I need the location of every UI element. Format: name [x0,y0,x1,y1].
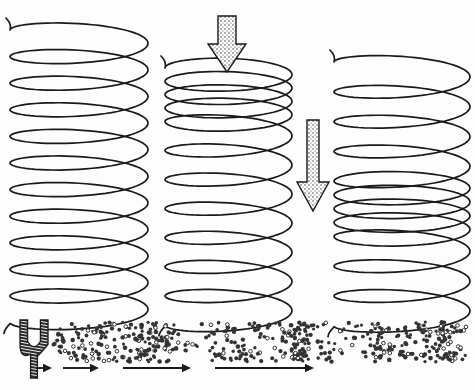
air-molecule-dot [186,341,190,345]
air-molecule-dot [303,342,306,345]
air-molecule-dot [81,344,85,348]
air-molecule-dot [80,327,84,331]
air-molecule-dot [333,342,336,345]
air-molecule-dot [224,329,228,333]
air-molecule-dot [85,334,89,338]
air-molecule-dot [92,331,96,335]
air-molecule-dot [259,332,263,336]
air-molecule-dot [148,342,152,346]
air-molecule-dot [375,341,379,345]
air-molecule-dot [128,359,132,363]
air-molecule-dot [438,356,442,360]
air-molecule-dot [456,324,460,328]
air-molecule-dot [251,325,254,328]
air-molecule-dot [69,356,73,360]
air-molecule-dot [259,359,263,363]
air-molecule-dot [156,344,161,349]
air-molecule-dot [122,343,125,346]
air-molecule-dot [154,326,158,330]
air-molecule-dot [151,335,155,339]
air-molecule-dot [253,346,256,349]
air-molecule-dot [406,352,410,356]
air-molecule-dot [115,349,119,353]
air-molecule-dot [143,349,147,353]
air-molecule-dot [436,332,440,336]
air-molecule-dot [360,324,363,327]
air-molecule-dot [464,325,468,329]
air-molecule-dot [59,345,63,349]
air-molecule-dot [376,338,380,342]
air-molecule-dot [409,333,412,336]
air-molecule-dot [303,355,306,358]
air-molecule-dot [176,341,180,345]
air-molecule-dot [441,331,445,335]
air-molecule-dot [249,350,253,354]
air-molecule-dot [113,345,117,349]
air-molecule-dot [103,321,107,325]
air-molecule-dot [176,332,180,336]
air-molecule-dot [293,336,297,340]
air-molecule-dot [99,326,102,329]
air-molecule-dot [160,338,165,343]
air-molecule-dot [386,348,389,351]
air-molecule-dot [140,352,144,356]
air-molecule-dot [452,331,455,334]
air-molecule-dot [56,332,60,336]
air-molecule-dot [292,328,296,332]
air-molecule-dot [52,343,56,347]
air-molecule-dot [437,347,440,350]
air-molecule-dot [128,326,131,329]
air-molecule-dot [293,332,297,336]
air-molecule-dot [75,330,78,333]
air-molecule-dot [120,355,124,359]
air-molecule-dot [368,343,372,347]
air-molecule-dot [222,351,226,355]
air-molecule-dot [154,321,158,325]
air-molecule-dot [225,338,229,342]
air-molecule-dot [374,327,377,330]
air-molecule-dot [225,334,229,338]
air-molecule-dot [373,360,377,364]
air-molecule-dot [298,339,302,343]
air-molecule-dot [222,347,226,351]
air-molecule-dot [443,321,447,325]
air-molecule-dot [166,335,170,339]
air-molecule-dot [292,357,296,361]
air-molecule-dot [381,331,384,334]
air-molecule-dot [256,328,260,332]
air-molecule-dot [319,345,324,350]
air-molecule-dot [123,346,128,351]
air-molecule-dot [425,339,429,343]
air-molecule-dot [191,343,195,347]
air-molecule-dot [164,324,168,328]
air-molecule-dot [446,329,449,332]
air-molecule-dot [141,330,144,333]
air-molecule-dot [58,349,61,352]
air-molecule-dot [196,345,199,348]
air-molecule-dot [232,350,235,353]
air-molecule-dot [184,349,187,352]
air-molecule-dot [423,352,427,356]
air-molecule-dot [85,359,89,363]
air-molecule-dot [240,352,244,356]
air-molecule-dot [77,346,81,350]
air-molecule-dot [464,354,467,357]
air-molecule-dot [410,352,414,356]
air-molecule-dot [120,335,124,339]
air-molecule-dot [312,327,315,330]
air-molecule-dot [136,348,140,352]
air-molecule-dot [298,332,301,335]
air-molecule-dot [171,331,175,335]
air-molecule-dot [292,342,296,346]
air-molecule-dot [113,338,117,342]
air-molecule-dot [128,349,132,353]
air-molecule-dot [217,353,221,357]
air-molecule-dot [403,328,407,332]
air-molecule-dot [284,340,288,344]
air-molecule-dot [234,356,238,360]
air-molecule-dot [174,346,179,351]
air-molecule-dot [446,342,450,346]
air-molecule-dot [138,357,142,361]
air-molecule-dot [273,346,277,350]
air-molecule-dot [134,356,138,360]
